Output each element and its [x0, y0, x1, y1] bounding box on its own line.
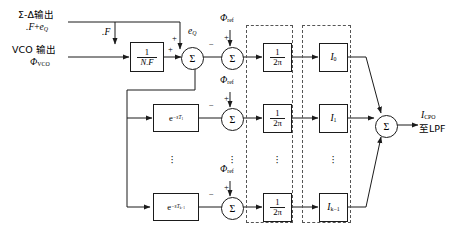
delay-block-1-expr: e−sTk−1 [167, 202, 185, 212]
current-block-0: I0 [319, 43, 348, 72]
output-current-sub: CPO [424, 114, 435, 120]
phase-summer-0-sign-left: − [209, 40, 214, 49]
phase-summer-1-sign-left: − [209, 101, 214, 110]
phi-ref-0-sub: ref [227, 17, 234, 23]
current-column-ellipsis: ··· [326, 155, 340, 164]
quantization-error-arrow-label: eQ [188, 27, 196, 37]
vco-input-label-line2: ΦVCO [30, 58, 50, 68]
phase-summer-1-sign-top: + [224, 94, 229, 103]
scale-block-0: 1 2π [263, 43, 292, 72]
divider-numerator: 1 [137, 48, 156, 57]
scale-1-denominator: 2π [270, 118, 285, 128]
sigma-delta-input-label-line2: .F+eQ [26, 23, 48, 33]
scale-0-numerator: 1 [270, 48, 285, 57]
eq-sub: Q [192, 30, 196, 36]
phi-ref-2-sub: ref [227, 168, 234, 174]
current-1-sub: 1 [334, 118, 337, 124]
current-block-2: Ik−1 [319, 193, 348, 222]
phase-summer-2-glyph: Σ [230, 203, 236, 214]
scale-0-denominator: 2π [270, 57, 285, 67]
divider-block: 1 N.F [130, 42, 164, 72]
sigma-delta-fraction-text: .F [26, 22, 34, 32]
current-2-sub: k−1 [330, 207, 339, 213]
vco-phase-sub: VCO [37, 61, 49, 67]
current-2-expr: Ik−1 [327, 202, 339, 212]
phase-summer-2-sign-top: + [224, 183, 229, 192]
scale-column-ellipsis: ··· [270, 155, 284, 164]
phase-summer-1-glyph: Σ [230, 114, 236, 125]
delay-column-ellipsis: ··· [165, 155, 179, 164]
delay-0-exponent: −sT1 [173, 114, 183, 120]
input-summer-sign-top: + [172, 34, 177, 43]
phase-summer-0-sign-top: + [224, 33, 229, 42]
quantization-error-sub: Q [44, 26, 48, 32]
delay-block-0-expr: e−sT1 [169, 113, 183, 123]
current-0-sub: 0 [334, 57, 337, 63]
divider-tap-label: .F [102, 28, 110, 38]
current-block-1: I1 [319, 104, 348, 133]
current-0-expr: I0 [330, 52, 336, 62]
scale-block-2: 1 2π [263, 193, 292, 222]
input-summer-sign-left: + [168, 45, 173, 54]
output-summer: Σ [375, 115, 398, 138]
summer-column-ellipsis: ··· [225, 155, 239, 164]
scale-block-1: 1 2π [263, 104, 292, 133]
output-destination-label: 至LPF [419, 124, 446, 134]
input-summer-glyph: Σ [190, 53, 196, 64]
phase-summer-0: Σ [221, 47, 244, 70]
sigma-delta-input-label-line1: Σ-Δ输出 [18, 10, 54, 20]
phase-summer-0-glyph: Σ [230, 53, 236, 64]
delay-block-1: e−sTk−1 [153, 193, 199, 221]
phase-summer-2-sign-left: − [209, 190, 214, 199]
phi-ref-1-sub: ref [227, 79, 234, 85]
scale-0-fraction: 1 2π [270, 48, 285, 66]
scale-1-fraction: 1 2π [270, 109, 285, 127]
delay-block-0: e−sT1 [153, 104, 199, 132]
output-summer-glyph: Σ [384, 121, 390, 132]
scale-2-fraction: 1 2π [270, 198, 285, 216]
phi-ref-label-0: Φref [220, 14, 234, 24]
phase-summer-2: Σ [221, 197, 244, 220]
delay-0-exp-sub: 1 [181, 116, 183, 120]
phase-summer-1: Σ [221, 108, 244, 131]
divider-fraction: 1 N.F [137, 48, 156, 66]
delay-1-exponent: −sTk−1 [171, 203, 185, 209]
block-diagram-canvas: Σ-Δ输出 .F+eQ VCO 输出 ΦVCO .F 1 N.F Σ + + e… [0, 0, 458, 243]
wire-I0-to-output-summer [347, 57, 381, 113]
output-current-label: ICPO [421, 111, 436, 121]
scale-2-denominator: 2π [270, 207, 285, 217]
current-1-expr: I1 [330, 113, 336, 123]
scale-2-numerator: 1 [270, 198, 285, 207]
phi-ref-label-1: Φref [220, 76, 234, 86]
wire-feedback-bus [127, 57, 195, 207]
delay-1-exp-sub: k−1 [180, 205, 185, 209]
divider-denominator: N.F [137, 57, 156, 67]
input-summer: Σ [181, 47, 204, 70]
vco-input-label-line1: VCO 输出 [12, 45, 56, 55]
wire-I2-to-output-summer [347, 137, 381, 207]
scale-1-numerator: 1 [270, 109, 285, 118]
